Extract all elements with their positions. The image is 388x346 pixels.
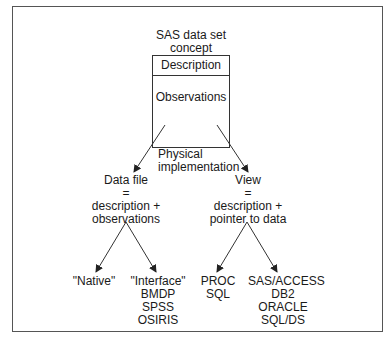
edge-label-physical-implementation: Physical implementation — [158, 148, 232, 174]
native-node: "Native" — [66, 275, 122, 288]
arrow-to-native — [96, 222, 126, 272]
proc-sql-node: PROC SQL — [188, 275, 248, 301]
data-file-node: Data file = description + observations — [86, 174, 166, 226]
arrow-to-sas-access — [247, 222, 277, 272]
sas-access-node: SAS/ACCESS DB2 ORACLE SQL/DS — [248, 275, 318, 327]
interface-node: "Interface" BMDP SPSS OSIRIS — [130, 275, 186, 327]
view-node: View = description + pointer to data — [200, 174, 296, 226]
arrow-to-interface — [126, 222, 156, 272]
arrow-to-proc-sql — [217, 222, 247, 272]
